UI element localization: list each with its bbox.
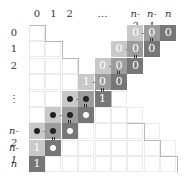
stair-edge xyxy=(78,58,79,74)
filled-dot-icon xyxy=(50,112,56,118)
grid-cell xyxy=(127,123,143,139)
grid-cell xyxy=(29,25,45,41)
grid-cell xyxy=(111,156,127,172)
grid-cell xyxy=(29,74,45,90)
grid-cell xyxy=(45,91,61,107)
grid-cell xyxy=(29,41,45,57)
dark-cell: 1 xyxy=(95,91,111,107)
grid-cell xyxy=(111,91,127,107)
dark-cell: 1 xyxy=(29,156,45,172)
grid-cell xyxy=(45,156,61,172)
grid-cell xyxy=(144,156,160,172)
grid-cell xyxy=(160,156,176,172)
grid-cell xyxy=(111,140,127,156)
grid-cell xyxy=(127,140,143,156)
column-label: 0 xyxy=(29,8,45,20)
dark-cell: 0 xyxy=(111,74,127,90)
grid-cell xyxy=(144,140,160,156)
grid-cell xyxy=(45,74,61,90)
stair-edge xyxy=(177,156,178,172)
stair-edge xyxy=(29,25,45,26)
row-label: 1 xyxy=(6,43,22,55)
hollow-dot-icon xyxy=(83,112,89,118)
stair-edge xyxy=(111,91,112,107)
grid-cell xyxy=(78,140,94,156)
grid-cell xyxy=(62,156,78,172)
row-label: n xyxy=(6,158,22,170)
column-label: 2 xyxy=(62,8,78,20)
row-label: 0 xyxy=(6,27,22,39)
hollow-dot-icon xyxy=(50,145,56,151)
grid-cell xyxy=(144,123,160,139)
stair-edge xyxy=(45,25,46,41)
dark-cell xyxy=(45,140,61,156)
dark-cell xyxy=(78,107,94,123)
grid-cell xyxy=(95,156,111,172)
row-label: ⋮ xyxy=(6,93,22,105)
filled-dot-icon xyxy=(34,128,40,134)
stair-edge xyxy=(160,140,161,156)
stair-edge xyxy=(127,123,143,124)
grid-cell xyxy=(45,41,61,57)
grid-cell xyxy=(78,123,94,139)
light-cell: 1 xyxy=(29,140,45,156)
grid-cell xyxy=(29,91,45,107)
stair-edge xyxy=(45,41,61,42)
grid-cell xyxy=(95,140,111,156)
dark-cell: 0 xyxy=(127,58,143,74)
grid-cell xyxy=(95,123,111,139)
column-label: 1 xyxy=(45,8,61,20)
dark-cell: 0 xyxy=(144,41,160,57)
filled-dot-icon xyxy=(83,96,89,102)
grid-cell xyxy=(111,123,127,139)
stair-edge xyxy=(160,156,176,157)
stair-edge xyxy=(144,140,160,141)
grid-cell xyxy=(62,140,78,156)
grid-cell xyxy=(127,107,143,123)
dark-cell: 0 xyxy=(160,25,176,41)
row-label: 2 xyxy=(6,60,22,72)
grid-cell xyxy=(160,140,176,156)
grid-cell xyxy=(62,58,78,74)
filled-dot-icon xyxy=(50,128,56,134)
grid-cell xyxy=(45,58,61,74)
grid-cell xyxy=(78,156,94,172)
column-label: n xyxy=(160,8,176,20)
column-label: … xyxy=(95,8,111,20)
dark-cell xyxy=(62,123,78,139)
grid-cell xyxy=(127,156,143,172)
stair-edge xyxy=(144,123,145,139)
grid-cell xyxy=(29,58,45,74)
hollow-dot-icon xyxy=(67,128,73,134)
filled-dot-icon xyxy=(67,112,73,118)
stair-edge xyxy=(62,41,63,57)
grid-cell xyxy=(111,107,127,123)
stair-edge xyxy=(62,58,78,59)
filled-dot-icon xyxy=(67,96,73,102)
grid-cell xyxy=(29,107,45,123)
grid-cell xyxy=(62,74,78,90)
grid-cell xyxy=(95,107,111,123)
